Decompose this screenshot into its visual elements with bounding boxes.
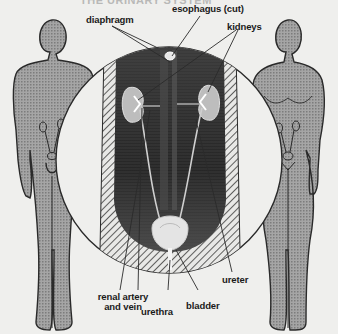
urinary-system-diagram: THE URINARY SYSTEM diaphragm esophagus (… [0, 0, 338, 334]
diagram-canvas [0, 0, 338, 334]
label-bladder: bladder [186, 301, 220, 311]
label-kidneys: kidneys [227, 22, 262, 32]
label-esophagus: esophagus (cut) [172, 4, 244, 14]
label-ureter: ureter [222, 275, 248, 285]
label-diaphragm: diaphragm [86, 15, 134, 25]
left-kidney [122, 87, 143, 122]
torso-inset [56, 16, 282, 290]
label-urethra: urethra [141, 307, 173, 317]
